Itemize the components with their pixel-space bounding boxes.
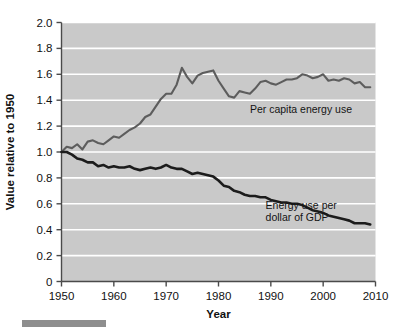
x-tick-label: 1960	[101, 290, 127, 302]
y-tick-label: 1.0	[37, 146, 53, 158]
y-axis-title: Value relative to 1950	[4, 94, 16, 210]
x-axis-tick-labels: 1950196019701980199020002010	[49, 290, 389, 302]
y-axis-tick-labels: 00.20.40.60.81.01.21.41.61.82.0	[37, 17, 54, 288]
figure-container: 00.20.40.60.81.01.21.41.61.82.0 19501960…	[0, 0, 400, 331]
x-tick-label: 2010	[363, 290, 389, 302]
chart-canvas: 00.20.40.60.81.01.21.41.61.82.0 19501960…	[0, 0, 400, 331]
y-tick-label: 0	[46, 276, 52, 288]
series-annotation-label: dollar of GDP	[266, 211, 329, 223]
x-tick-label: 1970	[153, 290, 179, 302]
y-tick-label: 2.0	[37, 17, 53, 29]
x-tick-label: 2000	[310, 290, 336, 302]
y-tick-label: 1.8	[37, 42, 53, 54]
x-tick-label: 1990	[258, 290, 284, 302]
y-tick-label: 0.8	[37, 172, 53, 184]
y-tick-label: 0.4	[37, 224, 54, 236]
footer-decoration-bar	[22, 320, 106, 327]
x-tick-label: 1980	[206, 290, 232, 302]
x-tick-label: 1950	[49, 290, 75, 302]
y-tick-label: 0.2	[37, 250, 53, 262]
series-annotation-label: Energy use per	[266, 199, 338, 211]
x-axis-ticks	[62, 282, 376, 287]
x-axis-title: Year	[206, 308, 231, 320]
series-annotation-label: Per capita energy use	[250, 103, 352, 115]
y-tick-label: 1.4	[37, 94, 54, 106]
y-tick-label: 1.6	[37, 68, 53, 80]
y-tick-label: 1.2	[37, 120, 53, 132]
y-tick-label: 0.6	[37, 198, 53, 210]
